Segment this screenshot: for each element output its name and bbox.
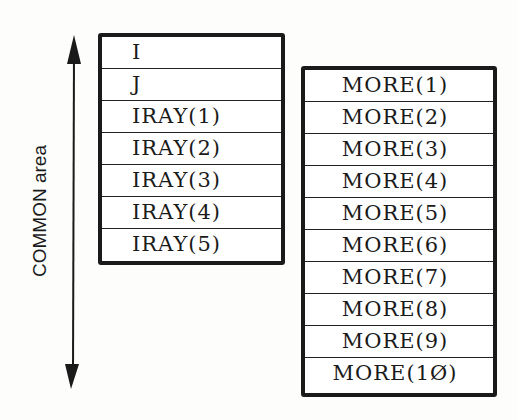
cell-iray-4: IRAY(4) xyxy=(102,197,281,229)
cell-j: J xyxy=(102,69,281,101)
cell-more-1: MORE(1) xyxy=(305,70,493,102)
cell-more-10: MORE(1Ø) xyxy=(305,358,493,390)
cell-iray-2: IRAY(2) xyxy=(102,133,281,165)
cell-more-9: MORE(9) xyxy=(305,326,493,358)
cell-iray-5: IRAY(5) xyxy=(102,229,281,261)
cell-iray-3: IRAY(3) xyxy=(102,165,281,197)
common-area-label: COMMON area xyxy=(29,141,51,281)
cell-more-2: MORE(2) xyxy=(305,102,493,134)
common-block-right: MORE(1) MORE(2) MORE(3) MORE(4) MORE(5) … xyxy=(301,66,497,397)
cell-more-6: MORE(6) xyxy=(305,230,493,262)
cell-more-4: MORE(4) xyxy=(305,166,493,198)
cell-more-3: MORE(3) xyxy=(305,134,493,166)
cell-more-7: MORE(7) xyxy=(305,262,493,294)
cell-iray-1: IRAY(1) xyxy=(102,101,281,133)
cell-more-8: MORE(8) xyxy=(305,294,493,326)
cell-more-5: MORE(5) xyxy=(305,198,493,230)
common-block-left: I J IRAY(1) IRAY(2) IRAY(3) IRAY(4) IRAY… xyxy=(98,33,285,265)
cell-i: I xyxy=(102,37,281,69)
